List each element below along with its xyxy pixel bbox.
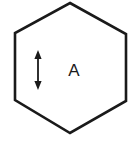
region-label-A: A — [68, 61, 80, 80]
figure-canvas: A — [0, 0, 138, 145]
hexagon-diagram-svg: A — [0, 0, 138, 145]
